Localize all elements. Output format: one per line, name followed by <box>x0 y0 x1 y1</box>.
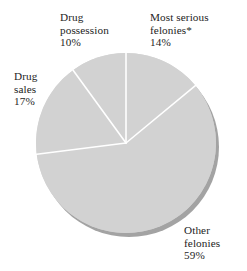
slice-label-line2: sales <box>14 83 37 96</box>
pie-chart-figure: Drug possession 10% Most serious felonie… <box>0 0 247 271</box>
slice-label-line1: Drug <box>60 11 109 24</box>
slice-label-drug-sales: Drug sales 17% <box>14 70 37 108</box>
slice-label-line2: felonies* <box>150 24 209 37</box>
slice-value-drug-sales: 17% <box>14 95 37 108</box>
slice-label-line1: Most serious <box>150 11 209 24</box>
slice-label-drug-possession: Drug possession 10% <box>60 11 109 49</box>
slice-label-line2: possession <box>60 24 109 37</box>
slice-label-line1: Drug <box>14 70 37 83</box>
slice-label-other-felonies: Other felonies 59% <box>184 224 220 262</box>
slice-label-line1: Other <box>184 224 220 237</box>
pie-slice-layer <box>36 53 216 233</box>
slice-value-drug-possession: 10% <box>60 36 109 49</box>
slice-value-other-felonies: 59% <box>184 249 220 262</box>
slice-label-line2: felonies <box>184 237 220 250</box>
slice-label-most-serious-felonies: Most serious felonies* 14% <box>150 11 209 49</box>
slice-value-most-serious-felonies: 14% <box>150 36 209 49</box>
